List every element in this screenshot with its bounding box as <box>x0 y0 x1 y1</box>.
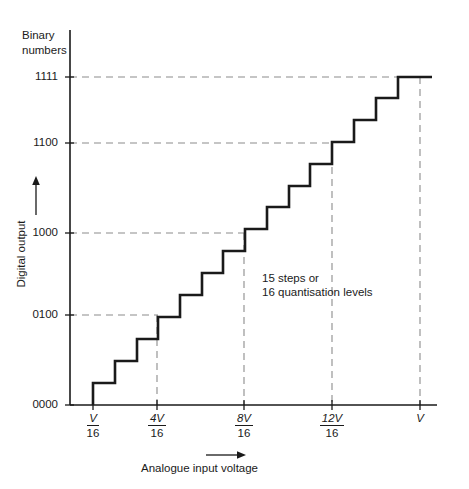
fraction-denominator: 16 <box>87 426 100 440</box>
steps-annotation: 15 steps or 16 quantisation levels <box>262 271 373 299</box>
x-tick-label-8v16: 8V 16 <box>215 412 273 440</box>
y-tick-label-1100: 1100 <box>14 136 58 148</box>
fraction-4v-16: 4V 16 <box>148 412 166 440</box>
x-tick-value-v: V <box>416 412 424 424</box>
adc-quantisation-chart: Binary numbers 1111 1100 1000 0100 0000 … <box>0 0 469 489</box>
fraction-denominator: 16 <box>148 426 166 440</box>
y-tick-label-0100: 0100 <box>14 308 58 320</box>
x-tick-label-4v16: 4V 16 <box>128 412 186 440</box>
x-axis-title: Analogue input voltage <box>141 462 258 474</box>
fraction-numerator: V <box>87 412 100 426</box>
staircase-curve <box>93 77 432 405</box>
y-tick-label-1111: 1111 <box>14 70 58 82</box>
y-tick-label-0000: 0000 <box>14 398 58 410</box>
binary-numbers-heading: Binary numbers <box>22 28 67 57</box>
fraction-denominator: 16 <box>235 426 253 440</box>
chart-axes <box>70 30 437 405</box>
fraction-numerator: 8V <box>235 412 253 426</box>
fraction-denominator: 16 <box>320 426 344 440</box>
fraction-8v-16: 8V 16 <box>235 412 253 440</box>
fraction-numerator: 12V <box>320 412 344 426</box>
fraction-12v-16: 12V 16 <box>320 412 344 440</box>
fraction-numerator: 4V <box>148 412 166 426</box>
x-axis-arrow <box>206 451 246 459</box>
x-tick-label-v16: V 16 <box>64 412 122 440</box>
x-tick-label-12v16: 12V 16 <box>303 412 361 440</box>
vertical-guide-lines <box>157 77 420 405</box>
y-axis-title: Digital output <box>15 208 27 300</box>
y-axis-arrow <box>32 176 40 215</box>
x-tick-label-v: V <box>391 412 449 424</box>
fraction-v-16: V 16 <box>87 412 100 440</box>
